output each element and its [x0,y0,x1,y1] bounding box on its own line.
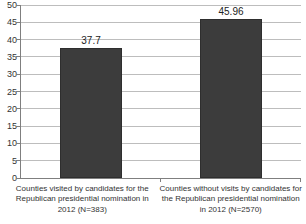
y-axis-tick [16,91,21,92]
y-axis-tick [16,39,21,40]
bar [60,48,122,178]
x-axis-tick [300,178,301,182]
y-axis-tick [16,56,21,57]
y-axis-tick [16,126,21,127]
y-axis-tick [16,108,21,109]
y-axis-tick [16,74,21,75]
plot-area: 37.745.96 [20,5,301,179]
y-axis-tick [16,178,21,179]
category-label: Counties without visits by candidates fo… [157,184,306,215]
x-axis-labels: Counties visited by candidates for the R… [8,184,305,215]
category-label: Counties visited by candidates for the R… [8,184,157,215]
y-axis-tick [16,143,21,144]
y-axis-tick [16,22,21,23]
bar-value-label: 37.7 [48,35,134,46]
y-axis-tick [16,5,21,6]
bar-value-label: 45.96 [188,6,274,17]
y-axis: 05101520253035404550 [0,5,17,178]
x-axis-tick [160,178,161,182]
bar-chart: 05101520253035404550 37.745.96 Counties … [0,0,305,224]
bar [200,19,262,178]
y-axis-tick [16,160,21,161]
